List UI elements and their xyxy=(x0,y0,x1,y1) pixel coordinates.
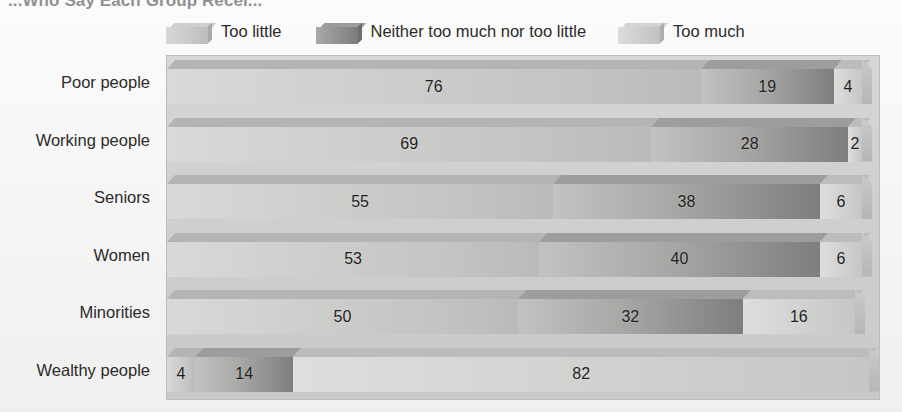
bar-value-label: 32 xyxy=(621,308,639,326)
legend-label: Neither too much nor too little xyxy=(371,22,587,41)
bar-row: 69282 xyxy=(167,118,879,162)
bar-value-label: 19 xyxy=(758,78,776,96)
bar-row: 503216 xyxy=(167,290,879,334)
bar-row: 41482 xyxy=(167,348,879,392)
chart-legend: Too little Neither too much nor too litt… xyxy=(166,14,896,48)
bar-segment-neither-too-much-nor-too-little[interactable]: 14 xyxy=(195,357,293,392)
bar-end-cap xyxy=(869,348,879,392)
bar-segment-too-little[interactable]: 50 xyxy=(167,299,518,334)
legend-swatch-icon xyxy=(316,23,362,44)
bar-value-label: 28 xyxy=(741,135,759,153)
category-label-4: Women xyxy=(93,246,150,265)
bar-segment-too-little[interactable]: 76 xyxy=(167,69,701,104)
bar-row: 76194 xyxy=(167,60,879,104)
bar-segment-too-little[interactable]: 55 xyxy=(167,184,553,219)
bar-segment-neither-too-much-nor-too-little[interactable]: 40 xyxy=(539,242,820,277)
bar-segment-too-much[interactable]: 4 xyxy=(834,69,862,104)
bar-segment-neither-too-much-nor-too-little[interactable]: 28 xyxy=(651,127,848,162)
bar-segment-too-little[interactable]: 4 xyxy=(167,357,195,392)
category-label-2: Working people xyxy=(36,131,150,150)
category-label-5: Minorities xyxy=(79,303,150,322)
legend-swatch-icon xyxy=(618,23,664,44)
bar-segment-too-much[interactable]: 82 xyxy=(293,357,869,392)
bar-value-label: 4 xyxy=(177,365,186,383)
bar-value-label: 53 xyxy=(344,250,362,268)
bar-segment-neither-too-much-nor-too-little[interactable]: 38 xyxy=(553,184,820,219)
bar-end-cap xyxy=(862,60,872,104)
category-label-1: Poor people xyxy=(61,73,150,92)
bar-value-label: 16 xyxy=(790,308,808,326)
legend-label: Too much xyxy=(673,22,745,41)
bar-end-cap xyxy=(862,118,872,162)
bar-value-label: 50 xyxy=(334,308,352,326)
bar-row: 53406 xyxy=(167,233,879,277)
bar-segment-too-little[interactable]: 69 xyxy=(167,127,651,162)
bar-segment-too-much[interactable]: 16 xyxy=(743,299,855,334)
bar-value-label: 14 xyxy=(235,365,253,383)
bar-value-label: 2 xyxy=(851,135,860,153)
bar-segment-too-much[interactable]: 6 xyxy=(820,184,862,219)
bar-value-label: 82 xyxy=(572,365,590,383)
bar-value-label: 55 xyxy=(351,193,369,211)
category-label-6: Wealthy people xyxy=(37,361,150,380)
bar-value-label: 4 xyxy=(843,78,852,96)
legend-swatch-icon xyxy=(166,23,212,44)
bar-segment-too-much[interactable]: 2 xyxy=(848,127,862,162)
bar-segment-too-little[interactable]: 53 xyxy=(167,242,539,277)
bar-value-label: 6 xyxy=(836,193,845,211)
legend-item-too-little[interactable]: Too little xyxy=(166,19,282,44)
bar-segment-too-much[interactable]: 6 xyxy=(820,242,862,277)
bar-value-label: 38 xyxy=(678,193,696,211)
category-axis: Poor peopleWorking peopleSeniorsWomenMin… xyxy=(0,55,158,400)
bar-segment-neither-too-much-nor-too-little[interactable]: 32 xyxy=(518,299,743,334)
bar-value-label: 69 xyxy=(400,135,418,153)
legend-item-neither[interactable]: Neither too much nor too little xyxy=(316,19,587,44)
bar-value-label: 40 xyxy=(671,250,689,268)
legend-item-too-much[interactable]: Too much xyxy=(618,19,745,44)
bar-end-cap xyxy=(862,233,872,277)
legend-label: Too little xyxy=(221,22,282,41)
bar-value-label: 76 xyxy=(425,78,443,96)
bar-end-cap xyxy=(862,175,872,219)
bar-end-cap xyxy=(855,290,865,334)
bar-value-label: 6 xyxy=(836,250,845,268)
page-title: ...Who Say Each Group Recei... xyxy=(8,0,262,11)
bar-row: 55386 xyxy=(167,175,879,219)
category-label-3: Seniors xyxy=(94,188,150,207)
plot-area: 7619469282553865340650321641482 xyxy=(166,55,880,400)
bar-segment-neither-too-much-nor-too-little[interactable]: 19 xyxy=(701,69,834,104)
